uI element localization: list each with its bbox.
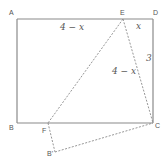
vertex-label-b: B <box>9 124 14 131</box>
segment-label-ed: x <box>136 21 141 31</box>
segment-label-ae: 4 − x <box>59 22 84 32</box>
vertex-label-e: E <box>120 9 125 16</box>
fold-diagram: A B C D E F B' 4 − x x 3 4 − x <box>0 0 166 164</box>
vertex-label-a: A <box>9 9 14 16</box>
edge-b-prime-c <box>55 123 153 152</box>
vertex-label-b-prime: B' <box>47 150 53 157</box>
edge-fb-prime <box>48 123 55 152</box>
vertex-label-f: F <box>42 127 46 134</box>
segment-label-dc: 3 <box>146 53 152 63</box>
segment-label-ec: 4 − x <box>111 66 136 76</box>
vertex-label-c: C <box>155 122 160 129</box>
vertex-label-d: D <box>153 9 158 16</box>
